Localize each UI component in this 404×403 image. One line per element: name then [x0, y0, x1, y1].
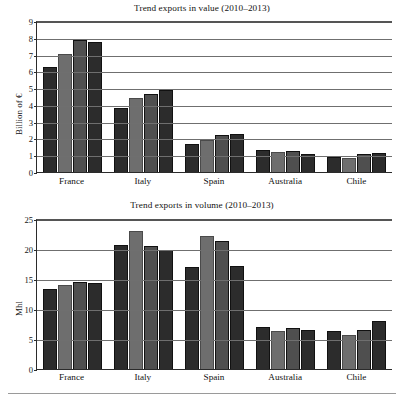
bar: [327, 331, 341, 370]
bar: [185, 144, 199, 173]
bar-group: [321, 220, 392, 370]
y-tick-label: 0: [29, 365, 33, 375]
chart-title-volume: Trend exports in volume (2010–2013): [0, 200, 404, 210]
bar: [256, 327, 270, 370]
bar: [159, 250, 173, 370]
y-tick-label: 5: [29, 84, 33, 94]
y-tick-mark: [34, 310, 38, 311]
y-tick-mark: [34, 22, 38, 23]
bar: [230, 134, 244, 173]
y-tick-mark: [34, 72, 38, 73]
x-tick-label: France: [36, 176, 107, 186]
y-tick-mark: [34, 156, 38, 157]
bar: [357, 154, 371, 173]
y-tick-mark: [34, 56, 38, 57]
bar: [301, 330, 315, 370]
x-tick-label: Italy: [107, 176, 178, 186]
bar: [114, 108, 128, 173]
bar: [327, 157, 341, 173]
y-tick-label: 20: [24, 245, 33, 255]
y-tick-mark: [34, 173, 38, 174]
bar: [144, 94, 158, 173]
y-tick-label: 6: [29, 67, 33, 77]
y-tick-mark: [34, 340, 38, 341]
bar: [88, 283, 102, 370]
bar: [256, 150, 270, 173]
bar: [286, 328, 300, 370]
y-tick-label: 3: [29, 118, 33, 128]
y-tick-label: 8: [29, 34, 33, 44]
y-tick-mark: [34, 139, 38, 140]
y-tick-mark: [34, 89, 38, 90]
x-axis-labels-value: FranceItalySpainAustraliaChile: [36, 176, 392, 186]
chart-trend-exports-volume: Trend exports in volume (2010–2013) Mhl …: [0, 196, 404, 382]
bar: [58, 54, 72, 173]
x-tick-label: Chile: [321, 372, 392, 382]
bar: [215, 241, 229, 370]
bar-group: [37, 22, 108, 173]
x-axis-line-value: [37, 172, 392, 173]
bar: [372, 321, 386, 370]
plot-area-value: 0123456789: [36, 21, 392, 173]
bar: [372, 153, 386, 173]
y-tick-label: 25: [24, 215, 33, 225]
bar: [43, 289, 57, 370]
x-tick-label: Spain: [178, 176, 249, 186]
bar: [271, 152, 285, 173]
y-axis-label-volume: Mhl: [14, 301, 24, 316]
bar: [88, 42, 102, 173]
x-tick-label: Australia: [250, 176, 321, 186]
bar: [73, 40, 87, 173]
bar-group: [179, 22, 250, 173]
x-tick-label: Italy: [107, 372, 178, 382]
y-tick-label: 15: [24, 275, 33, 285]
x-axis-labels-volume: FranceItalySpainAustraliaChile: [36, 372, 392, 382]
x-tick-label: France: [36, 372, 107, 382]
bar: [58, 285, 72, 370]
bar-group: [250, 220, 321, 370]
y-tick-label: 5: [29, 335, 33, 345]
bar: [159, 90, 173, 173]
bar-groups-value: [37, 22, 392, 173]
x-axis-line-volume: [37, 369, 392, 370]
bar: [73, 282, 87, 370]
y-axis-label-value: Billion of €: [14, 93, 24, 135]
bar-group: [37, 220, 108, 370]
y-tick-mark: [34, 220, 38, 221]
bar-group: [250, 22, 321, 173]
bar: [129, 98, 143, 173]
page-divider-rule: [8, 393, 396, 394]
x-tick-label: Chile: [321, 176, 392, 186]
y-tick-label: 2: [29, 134, 33, 144]
bar: [43, 67, 57, 173]
bar: [357, 330, 371, 370]
bar-group: [321, 22, 392, 173]
y-tick-label: 0: [29, 168, 33, 178]
bar: [342, 158, 356, 173]
bar-group: [179, 220, 250, 370]
bar: [144, 246, 158, 370]
chart-trend-exports-value: Trend exports in value (2010–2013) Billi…: [0, 0, 404, 196]
bar: [286, 151, 300, 173]
y-tick-mark: [34, 123, 38, 124]
bar: [129, 231, 143, 370]
y-tick-label: 9: [29, 17, 33, 27]
y-tick-label: 7: [29, 51, 33, 61]
bar: [200, 140, 214, 173]
bar: [230, 266, 244, 370]
y-tick-label: 1: [29, 151, 33, 161]
y-tick-mark: [34, 370, 38, 371]
x-tick-label: Australia: [250, 372, 321, 382]
y-tick-label: 10: [24, 305, 33, 315]
bar: [185, 267, 199, 370]
bar: [200, 236, 214, 370]
bar: [271, 331, 285, 370]
y-tick-label: 4: [29, 101, 33, 111]
plot-area-volume: 0510152025: [36, 219, 392, 370]
figure-page: Trend exports in value (2010–2013) Billi…: [0, 0, 404, 403]
y-tick-mark: [34, 280, 38, 281]
bar-group: [108, 22, 179, 173]
x-tick-label: Spain: [178, 372, 249, 382]
y-tick-mark: [34, 39, 38, 40]
y-tick-mark: [34, 106, 38, 107]
